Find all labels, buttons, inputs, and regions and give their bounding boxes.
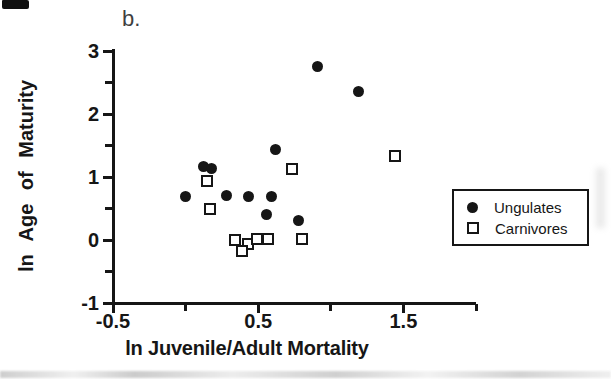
y-axis-title: ln Age of Maturity <box>15 56 39 296</box>
data-point-ungulates <box>353 86 364 97</box>
data-point-ungulates <box>266 191 277 202</box>
legend-label: Carnivores <box>495 220 568 237</box>
y-tick-label: 1 <box>55 167 99 187</box>
x-tick-label: -0.5 <box>86 311 140 331</box>
y-tick-label: 2 <box>55 104 99 124</box>
data-point-ungulates <box>206 163 217 174</box>
data-point-carnivores <box>286 163 298 175</box>
legend-label: Ungulates <box>494 199 562 216</box>
y-tick <box>105 81 112 84</box>
data-point-ungulates <box>221 190 232 201</box>
data-point-carnivores <box>236 245 248 257</box>
y-tick-label: 0 <box>55 230 99 250</box>
data-point-ungulates <box>243 191 254 202</box>
x-axis-line <box>111 302 476 305</box>
y-tick <box>105 270 112 273</box>
y-tick <box>105 207 112 210</box>
data-point-ungulates <box>180 191 191 202</box>
x-tick <box>184 304 187 311</box>
scan-artifact-right-edge <box>596 168 605 228</box>
open-square-icon <box>467 222 479 234</box>
panel-label: b. <box>122 6 140 32</box>
y-tick <box>103 113 112 116</box>
filled-circle-icon <box>467 202 478 213</box>
y-tick <box>103 239 112 242</box>
data-point-carnivores <box>229 234 241 246</box>
y-axis-line <box>112 49 115 305</box>
y-tick <box>105 144 112 147</box>
data-point-ungulates <box>261 209 272 220</box>
data-point-carnivores <box>296 233 308 245</box>
data-point-carnivores <box>251 233 263 245</box>
y-tick <box>103 302 112 305</box>
data-point-ungulates <box>293 215 304 226</box>
data-point-carnivores <box>389 150 401 162</box>
x-tick-label: 0.5 <box>231 311 285 331</box>
y-tick <box>103 176 112 179</box>
data-point-ungulates <box>312 61 323 72</box>
y-tick-label: -1 <box>55 293 99 313</box>
x-axis-title: ln Juvenile/Adult Mortality <box>87 337 407 360</box>
figure-scatter-plot: b. ln Juvenile/Adult Mortality ln Age of… <box>0 0 611 379</box>
data-point-ungulates <box>270 144 281 155</box>
x-tick-label: 1.5 <box>376 311 430 331</box>
legend-item-ungulates: Ungulates <box>467 200 587 214</box>
x-tick <box>475 304 478 311</box>
legend-box: Ungulates Carnivores <box>452 189 589 246</box>
y-tick-label: 3 <box>55 41 99 61</box>
scan-artifact-bottom-band <box>0 371 611 378</box>
data-point-carnivores <box>262 233 274 245</box>
x-tick <box>329 304 332 311</box>
data-point-carnivores <box>204 203 216 215</box>
legend-item-carnivores: Carnivores <box>467 221 587 235</box>
scan-artifact-top-left <box>2 0 29 9</box>
data-point-carnivores <box>201 175 213 187</box>
y-tick <box>103 50 112 53</box>
